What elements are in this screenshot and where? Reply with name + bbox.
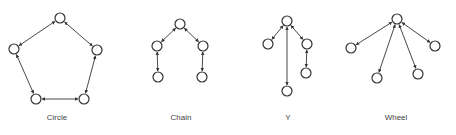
circle-edge bbox=[16, 54, 33, 93]
circle-label: Circle bbox=[47, 113, 67, 122]
y-node bbox=[302, 39, 312, 49]
circle-node bbox=[55, 13, 65, 23]
chain-node bbox=[152, 41, 162, 51]
wheel-edge bbox=[399, 25, 416, 69]
wheel-edge bbox=[402, 22, 430, 42]
chain-node bbox=[198, 41, 208, 51]
circle-node bbox=[92, 45, 102, 55]
y-node bbox=[282, 16, 292, 26]
circle-edge bbox=[65, 22, 93, 46]
y-edge bbox=[291, 26, 303, 40]
chain-node bbox=[175, 19, 185, 29]
wheel-label: Wheel bbox=[385, 113, 408, 122]
y-edge bbox=[306, 50, 307, 67]
circle-edge bbox=[19, 21, 55, 45]
wheel-node bbox=[346, 43, 356, 53]
circle-edge bbox=[86, 56, 96, 93]
wheel-node bbox=[413, 69, 423, 79]
wheel-node bbox=[430, 41, 440, 51]
chain-edge bbox=[157, 52, 158, 71]
chain-edge bbox=[184, 28, 198, 42]
wheel-node bbox=[372, 73, 382, 83]
chain-edge bbox=[202, 52, 203, 71]
circle-node bbox=[9, 44, 19, 54]
chain-node bbox=[153, 72, 163, 82]
wheel-edge bbox=[379, 25, 395, 73]
chain-edge bbox=[161, 28, 175, 42]
wheel-node bbox=[392, 14, 402, 24]
y-label: Y bbox=[285, 113, 290, 122]
chain-node bbox=[197, 72, 207, 82]
circle-node bbox=[31, 94, 41, 104]
y-node bbox=[301, 68, 311, 78]
y-node bbox=[282, 86, 292, 96]
y-node bbox=[263, 39, 273, 49]
y-edge bbox=[272, 26, 283, 40]
circle-node bbox=[79, 94, 89, 104]
wheel-edge bbox=[356, 22, 392, 45]
chain-label: Chain bbox=[171, 113, 192, 122]
